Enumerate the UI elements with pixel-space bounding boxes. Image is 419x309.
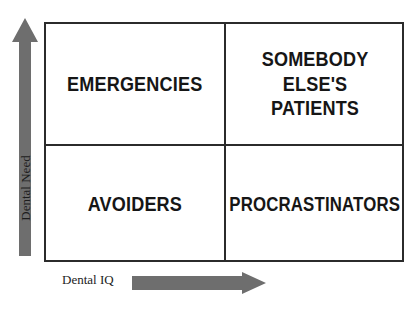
quadrant-matrix: EMERGENCIES SOMEBODY ELSE'S PATIENTS AVO… — [44, 22, 404, 262]
quadrant-top-right-label: SOMEBODY ELSE'S PATIENTS — [262, 47, 369, 121]
quadrant-top-left[interactable]: EMERGENCIES — [46, 24, 224, 144]
diagram-canvas: Dental Need EMERGENCIES SOMEBODY ELSE'S … — [0, 0, 419, 309]
quadrant-top-right[interactable]: SOMEBODY ELSE'S PATIENTS — [226, 24, 404, 144]
quadrant-top-left-label: EMERGENCIES — [67, 72, 202, 96]
y-axis-label: Dental Need — [18, 140, 34, 236]
quadrant-bottom-left-label: AVOIDERS — [88, 192, 182, 216]
x-axis-arrow — [132, 272, 268, 294]
x-axis-label: Dental IQ — [62, 272, 114, 288]
quadrant-bottom-left[interactable]: AVOIDERS — [46, 146, 224, 262]
quadrant-bottom-right-label: PROCRASTINATORS — [230, 192, 401, 216]
quadrant-bottom-right[interactable]: PROCRASTINATORS — [226, 146, 404, 262]
